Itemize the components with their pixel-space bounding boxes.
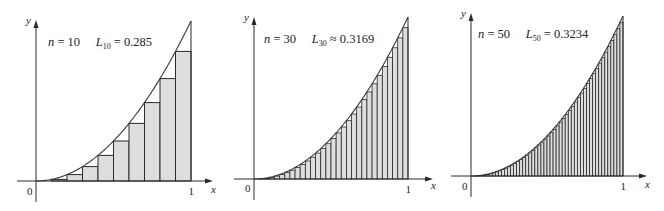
riemann-rectangle (535, 148, 538, 176)
riemann-rectangle (587, 84, 590, 176)
riemann-rectangle (501, 170, 504, 176)
riemann-rectangle (507, 167, 510, 176)
riemann-rectangle (504, 168, 507, 176)
riemann-rectangles (474, 22, 623, 176)
panel-n50: yx01n = 50 L50 = 0.3234 (0, 0, 664, 211)
riemann-rectangle (553, 129, 556, 176)
riemann-rectangle (529, 153, 532, 176)
riemann-annotation: n = 50 L50 = 0.3234 (478, 27, 589, 43)
riemann-rectangle (550, 133, 553, 176)
riemann-rectangle (611, 41, 614, 176)
riemann-rectangle (517, 162, 520, 176)
riemann-rectangle (547, 136, 550, 176)
riemann-rectangle (571, 106, 574, 176)
riemann-rectangle (541, 142, 544, 176)
riemann-rectangle (514, 163, 517, 176)
riemann-rectangle (596, 68, 599, 176)
riemann-rectangle (562, 118, 565, 176)
riemann-rectangle (590, 79, 593, 176)
riemann-rectangle (559, 122, 562, 176)
riemann-rectangle (556, 126, 559, 176)
riemann-rectangle (617, 29, 620, 176)
riemann-rectangle (580, 93, 583, 176)
y-axis-arrow-icon (469, 13, 474, 21)
riemann-rectangle (523, 158, 526, 177)
riemann-rectangle (568, 110, 571, 176)
x-tick-0: 0 (462, 180, 468, 192)
riemann-rectangle (544, 139, 547, 176)
riemann-rectangle (574, 102, 577, 176)
riemann-rectangle (599, 63, 602, 176)
x-tick-1: 1 (621, 180, 627, 192)
y-axis-label: y (460, 7, 466, 19)
riemann-rectangle (520, 160, 523, 176)
riemann-rectangle (526, 155, 529, 176)
riemann-sum-figure: yx01n = 10 L10 = 0.285 yx01n = 30 L30 ≈ … (0, 0, 664, 211)
riemann-rectangle (538, 145, 541, 176)
riemann-rectangle (565, 115, 568, 177)
riemann-rectangle (602, 58, 605, 176)
riemann-rectangle (593, 74, 596, 176)
riemann-rectangle (583, 88, 586, 176)
riemann-rectangle (532, 150, 535, 176)
riemann-rectangle (498, 171, 501, 176)
riemann-rectangle (495, 172, 498, 176)
riemann-rectangle (511, 165, 514, 176)
x-axis-label: x (644, 178, 650, 190)
riemann-rectangle (614, 35, 617, 176)
riemann-rectangle (605, 52, 608, 176)
riemann-rectangle (608, 46, 611, 176)
riemann-rectangle (577, 98, 580, 176)
